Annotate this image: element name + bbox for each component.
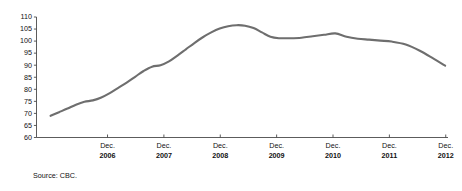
x-tick-month-label: Dec.: [100, 141, 115, 150]
x-axis: Dec.2006Dec.2007Dec.2008Dec.2009Dec.2010…: [37, 135, 454, 161]
x-tick-year-label: 2011: [382, 151, 398, 160]
y-tick-label: 95: [24, 48, 32, 57]
line-chart: 6065707580859095100105110 Dec.2006Dec.20…: [0, 0, 462, 191]
x-tick-month-label: Dec.: [269, 141, 284, 150]
y-tick-label: 70: [24, 109, 32, 118]
x-tick-year-label: 2007: [156, 151, 172, 160]
y-tick-label: 110: [21, 12, 32, 21]
x-tick-year-label: 2006: [100, 151, 116, 160]
y-axis: 6065707580859095100105110: [20, 12, 37, 142]
y-tick-label: 90: [24, 61, 32, 70]
x-tick-year-label: 2010: [325, 151, 341, 160]
x-tick-month-label: Dec.: [382, 141, 397, 150]
y-tick-label: 100: [20, 36, 32, 45]
y-tick-label: 80: [24, 85, 32, 94]
y-tick-label: 105: [20, 24, 32, 33]
y-tick-label: 60: [24, 133, 32, 142]
y-tick-label: 75: [24, 97, 32, 106]
x-tick-year-label: 2008: [212, 151, 228, 160]
series-line-index: [51, 25, 446, 116]
chart-svg: 6065707580859095100105110 Dec.2006Dec.20…: [0, 0, 462, 191]
x-tick-year-label: 2012: [438, 151, 454, 160]
x-tick-year-label: 2009: [269, 151, 285, 160]
x-tick-month-label: Dec.: [157, 141, 172, 150]
x-tick-month-label: Dec.: [213, 141, 228, 150]
data-series-line: [51, 25, 446, 116]
x-tick-month-label: Dec.: [326, 141, 341, 150]
source-note: Source: CBC.: [33, 171, 77, 180]
y-tick-label: 65: [24, 121, 32, 130]
y-tick-label: 85: [24, 73, 32, 82]
x-tick-month-label: Dec.: [438, 141, 453, 150]
